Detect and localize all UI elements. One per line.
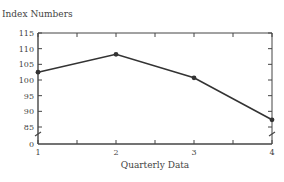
x-tick-label: 4 (269, 148, 274, 157)
x-tick-label: 3 (191, 148, 196, 157)
y-axis-ticks: 0859095100105110115 (19, 29, 272, 149)
data-point-marker (36, 70, 41, 75)
data-series (36, 52, 275, 122)
x-tick-label: 1 (35, 148, 40, 157)
x-tick-label: 2 (113, 148, 118, 157)
x-axis-ticks: 1234 (35, 33, 274, 157)
y-tick-label: 100 (19, 76, 34, 85)
y-tick-label: 110 (19, 45, 34, 54)
x-axis-title: Quarterly Data (0, 160, 284, 170)
data-point-marker (270, 117, 275, 122)
plot-frame (35, 33, 275, 144)
data-point-marker (114, 52, 119, 57)
series-line (38, 54, 272, 119)
y-tick-label: 105 (19, 60, 34, 69)
y-tick-label: 0 (29, 140, 34, 149)
y-tick-label: 115 (19, 29, 34, 38)
line-chart: 0859095100105110115 1234 (0, 0, 284, 182)
y-tick-label: 95 (24, 92, 34, 101)
y-tick-label: 90 (24, 107, 34, 116)
y-tick-label: 85 (24, 123, 34, 132)
data-point-marker (192, 75, 197, 80)
